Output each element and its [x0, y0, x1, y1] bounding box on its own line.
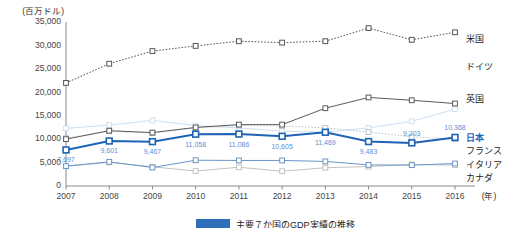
figure-number-badge [196, 219, 230, 228]
data-point-label: 10,605 [271, 143, 293, 150]
x-axis-tick-label: 2007 [57, 191, 76, 201]
data-point-marker [64, 81, 69, 86]
x-axis-tick-label: 2016 [446, 191, 465, 201]
series-イタリア [64, 158, 458, 170]
series-line [66, 97, 455, 139]
x-axis-unit-label: (年) [482, 191, 497, 201]
y-axis-tick-label: 0 [56, 180, 61, 190]
data-point-marker [453, 30, 458, 35]
data-point-marker [236, 39, 241, 44]
chart-container: (百万ドル)05,00010,00015,00020,00025,00030,0… [0, 0, 520, 228]
data-point-marker [323, 165, 328, 170]
data-point-marker [409, 140, 415, 146]
data-point-label: 9,467 [144, 148, 162, 155]
series-フランス [64, 123, 458, 141]
x-axis-tick-label: 2011 [230, 191, 249, 201]
data-point-marker [366, 163, 371, 168]
data-point-marker [279, 133, 285, 139]
data-point-label: 7,697 [57, 156, 75, 163]
data-point-marker [193, 131, 199, 137]
data-point-marker [280, 40, 285, 45]
data-point-marker [150, 118, 155, 123]
data-point-marker [236, 131, 242, 137]
data-point-marker [452, 135, 458, 141]
y-axis-tick-label: 15,000 [35, 110, 61, 120]
data-point-marker [150, 139, 156, 145]
figure-caption: 主要７か国のGDP実績の推移 [236, 218, 355, 228]
x-axis-tick-label: 2009 [143, 191, 162, 201]
data-point-marker [107, 123, 112, 128]
legend-label-米国[interactable]: 米国 [466, 33, 484, 44]
data-point-marker [150, 130, 155, 135]
data-point-marker [366, 26, 371, 31]
data-point-marker [280, 122, 285, 127]
data-point-marker [107, 61, 112, 66]
data-point-marker [366, 139, 372, 145]
data-point-marker [280, 158, 285, 163]
legend-label-日本[interactable]: 日本 [466, 132, 485, 143]
data-point-marker [107, 128, 112, 133]
data-point-marker [280, 169, 285, 174]
data-point-label: 9,203 [403, 130, 421, 137]
legend-label-フランス[interactable]: フランス [466, 146, 502, 156]
data-point-marker [453, 101, 458, 106]
data-point-marker [64, 137, 69, 142]
line-chart: (百万ドル)05,00010,00015,00020,00025,00030,0… [0, 0, 520, 228]
data-point-marker [236, 122, 241, 127]
data-point-marker [150, 165, 155, 170]
data-point-marker [193, 125, 198, 130]
legend-label-ドイツ[interactable]: ドイツ [466, 62, 493, 72]
data-point-marker [453, 107, 458, 112]
data-point-label: 11,469 [315, 139, 336, 146]
data-point-marker [193, 43, 198, 48]
y-axis-tick-label: 35,000 [35, 16, 61, 26]
series-line [66, 109, 455, 132]
data-point-label: 9,601 [100, 147, 118, 154]
data-point-marker [236, 158, 241, 163]
series-line [66, 160, 455, 167]
legend-label-英国[interactable]: 英国 [466, 93, 484, 104]
data-point-marker [323, 159, 328, 164]
x-axis-tick-label: 2013 [316, 191, 335, 201]
x-axis-tick-label: 2012 [273, 191, 292, 201]
data-point-marker [63, 147, 69, 153]
data-point-marker [409, 37, 414, 42]
x-axis-tick-label: 2015 [402, 191, 421, 201]
data-point-label: 11,086 [228, 141, 249, 148]
series-line [66, 28, 455, 83]
data-point-marker [64, 126, 69, 131]
data-point-marker [322, 129, 328, 135]
data-point-marker [409, 119, 414, 124]
y-axis-tick-label: 25,000 [35, 63, 61, 73]
data-point-marker [366, 130, 371, 135]
x-axis-tick-label: 2014 [359, 191, 378, 201]
series-日本 [63, 129, 458, 152]
data-point-marker [323, 39, 328, 44]
legend-label-カナダ[interactable]: カナダ [466, 172, 493, 183]
data-point-marker [193, 158, 198, 163]
data-point-marker [64, 164, 69, 169]
x-axis-tick-label: 2010 [186, 191, 205, 201]
series-ドイツ [64, 107, 458, 135]
y-axis-unit-label: (百万ドル) [22, 6, 64, 16]
data-point-marker [106, 138, 112, 144]
y-axis-tick-label: 10,000 [35, 133, 61, 143]
data-point-marker [107, 159, 112, 164]
x-axis-tick-label: 2008 [100, 191, 119, 201]
data-point-marker [409, 98, 414, 103]
data-point-marker [193, 169, 198, 174]
series-line [66, 132, 455, 150]
legend-label-イタリア[interactable]: イタリア [466, 160, 502, 170]
series-米国 [64, 26, 458, 86]
data-point-marker [236, 165, 241, 170]
y-axis-tick-label: 30,000 [35, 40, 61, 50]
data-point-marker [150, 49, 155, 54]
series-カナダ [64, 160, 458, 174]
data-point-marker [453, 161, 458, 166]
data-point-marker [366, 95, 371, 100]
data-point-label: 11,058 [185, 141, 206, 148]
data-point-marker [409, 163, 414, 168]
y-axis-tick-label: 20,000 [35, 87, 61, 97]
data-point-marker [323, 106, 328, 111]
series-line [66, 126, 455, 140]
